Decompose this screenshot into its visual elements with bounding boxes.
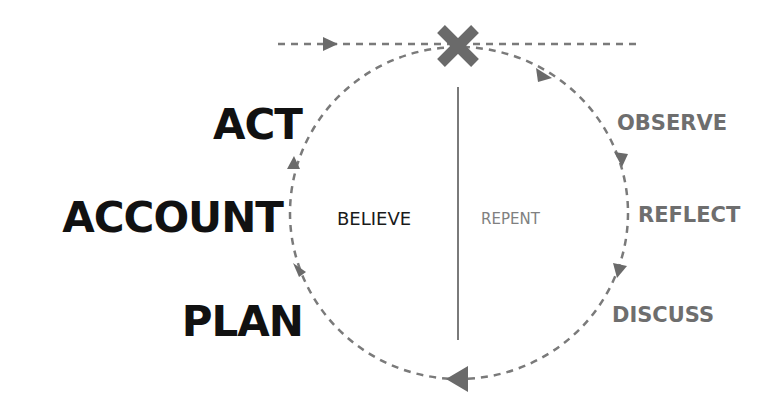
label-plan: PLAN xyxy=(182,301,303,343)
loop-arrow-icon xyxy=(536,68,552,82)
label-repent: REPENT xyxy=(481,212,540,227)
loop-arrow-icon xyxy=(446,366,468,392)
loop-arrow-icon xyxy=(614,152,628,167)
label-believe: BELIEVE xyxy=(337,210,411,228)
label-act: ACT xyxy=(213,104,302,146)
label-reflect: REFLECT xyxy=(638,205,740,226)
label-discuss: DISCUSS xyxy=(612,305,714,326)
label-observe: OBSERVE xyxy=(617,113,727,134)
loop-arrow-icon xyxy=(613,263,627,278)
x-mark-icon xyxy=(441,29,475,63)
label-account: ACCOUNT xyxy=(62,197,283,239)
timeline-arrow-icon xyxy=(323,37,338,51)
